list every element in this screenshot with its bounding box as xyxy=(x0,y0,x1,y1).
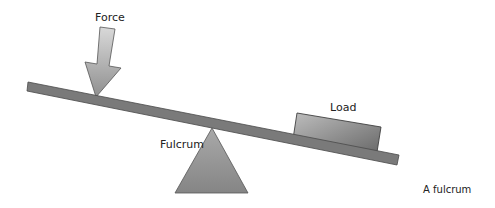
force-arrow-icon xyxy=(85,27,121,97)
lever-diagram: Force Load Fulcrum A fulcrum xyxy=(0,0,495,208)
load-label: Load xyxy=(330,101,356,114)
fulcrum-label: Fulcrum xyxy=(160,138,204,151)
figure-caption: A fulcrum xyxy=(423,184,471,195)
force-label: Force xyxy=(95,11,125,24)
force-arrow xyxy=(85,27,121,97)
